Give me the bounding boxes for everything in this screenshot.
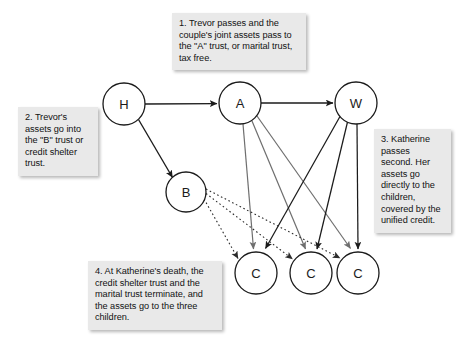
diagram-canvas: H A W B C C C 1. Trevor passes and the c…: [0, 0, 472, 354]
callout-step-2: 2. Trevor's assets go into the "B" trust…: [18, 107, 98, 176]
node-b[interactable]: B: [166, 172, 206, 212]
edge-h-to-b: [139, 120, 173, 178]
edge-b-to-c3: [206, 189, 340, 258]
node-c2-label: C: [306, 266, 315, 281]
callout-step-3: 3. Katherine passes second. Her assets g…: [374, 129, 451, 233]
node-a-label: A: [236, 96, 245, 111]
node-b-label: B: [182, 185, 191, 200]
edge-b-to-c1: [204, 199, 238, 259]
edge-a-to-c1: [243, 124, 254, 249]
node-c2[interactable]: C: [290, 252, 332, 294]
node-c1[interactable]: C: [235, 252, 277, 294]
node-h-label: H: [119, 97, 128, 112]
edge-a-to-c3: [257, 116, 351, 249]
node-w[interactable]: W: [335, 82, 377, 124]
callout-step-4: 4. At Katherine's death, the credit shel…: [88, 261, 222, 330]
node-a[interactable]: A: [219, 82, 261, 124]
node-c1-label: C: [251, 266, 260, 281]
node-c3-label: C: [353, 266, 362, 281]
node-w-label: W: [350, 96, 363, 111]
node-c3[interactable]: C: [337, 252, 379, 294]
edge-a-to-c2: [252, 121, 306, 249]
node-h[interactable]: H: [103, 83, 145, 125]
callout-step-1: 1. Trevor passes and the couple's joint …: [172, 13, 306, 70]
edge-w-to-c2: [317, 122, 348, 249]
edge-w-to-c1: [266, 117, 341, 249]
edge-w-to-c3: [357, 124, 358, 249]
